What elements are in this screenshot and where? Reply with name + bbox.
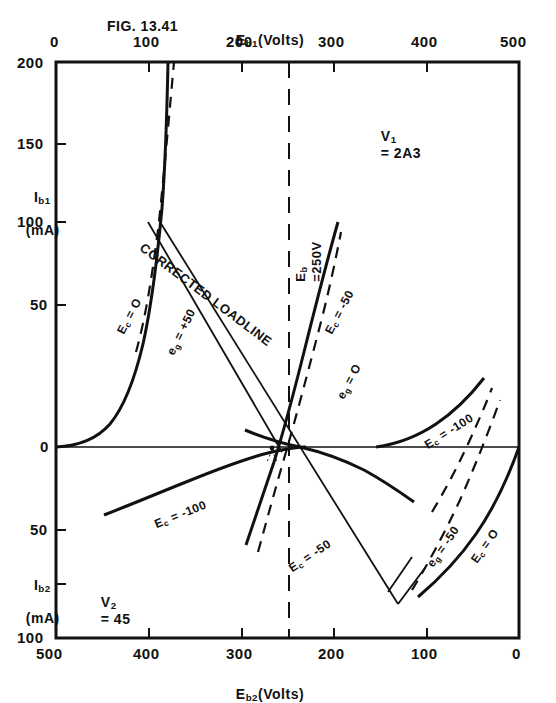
bottom-axis-subscript: b2 <box>246 692 258 703</box>
bottom-tick-200: 200 <box>318 645 345 662</box>
annotation-v1: V1 = 2A3 <box>372 112 421 161</box>
eb-subscript: b <box>299 267 309 273</box>
bottom-tick-0: 0 <box>512 645 521 662</box>
loadline-v-bottom <box>388 557 412 592</box>
bottom-tick-300: 300 <box>226 645 253 662</box>
v2-symbol: V <box>101 594 111 610</box>
ib2-unit: (mA) <box>26 610 60 626</box>
top-tick-0: 0 <box>50 33 59 50</box>
figure-caption: FIG. 13.41 <box>107 18 178 34</box>
v2-subscript: 2 <box>111 600 117 611</box>
left-tick-50: 50 <box>30 296 48 313</box>
eb-250v-label: Eb =250V <box>278 241 324 290</box>
top-tick-100: 100 <box>133 33 160 50</box>
left-tick-lower-50: 50 <box>30 521 48 538</box>
v2-value: = 45 <box>101 611 131 627</box>
top-tick-500: 500 <box>500 33 527 50</box>
ib1-unit: (mA) <box>26 222 60 238</box>
v1-value: = 2A3 <box>381 145 421 161</box>
annotation-v2: V2 = 45 <box>92 578 130 627</box>
v1-symbol: V <box>381 128 391 144</box>
bottom-axis-symbol: E <box>236 686 246 702</box>
bottom-tick-400: 400 <box>133 645 160 662</box>
left-tick-150: 150 <box>17 135 44 152</box>
eb-value: =250V <box>309 241 324 281</box>
ib2-subscript: b2 <box>38 583 50 594</box>
left-tick-lower-100: 100 <box>17 629 44 646</box>
v1-subscript: 1 <box>391 134 397 145</box>
ib1-subscript: b1 <box>38 195 50 206</box>
eb-symbol: E <box>293 273 308 282</box>
left-axis-title-upper: Ib1 (mA) <box>17 175 59 238</box>
bottom-tick-500: 500 <box>36 645 63 662</box>
left-axis-title-lower: Ib2 (mA) <box>17 563 59 626</box>
loadline-return <box>398 568 425 604</box>
left-tick-200: 200 <box>17 54 44 71</box>
top-axis-unit: (Volts) <box>258 32 304 48</box>
left-tick-0: 0 <box>40 438 49 455</box>
curve-v2-ec-minus50 <box>245 430 414 502</box>
bottom-axis-title: Eb2(Volts) <box>227 670 304 703</box>
top-tick-200: 200 <box>226 33 253 50</box>
top-tick-400: 400 <box>411 33 438 50</box>
bottom-axis-unit: (Volts) <box>258 686 304 702</box>
top-tick-300: 300 <box>318 33 345 50</box>
bottom-tick-100: 100 <box>411 645 438 662</box>
